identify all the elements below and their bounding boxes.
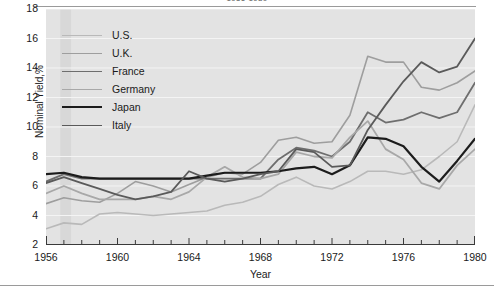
legend-swatch-icon — [62, 89, 102, 90]
x-tick-label: 1968 — [231, 251, 291, 263]
legend-item[interactable]: Germany — [62, 80, 155, 98]
legend-item[interactable]: Japan — [62, 98, 155, 116]
y-tick-label: 6 — [0, 179, 38, 191]
y-tick-label: 10 — [0, 120, 38, 132]
y-tick-label: 8 — [0, 150, 38, 162]
x-tick-label: 1980 — [445, 251, 494, 263]
y-tick-label: 12 — [0, 91, 38, 103]
legend-item[interactable]: Italy — [62, 116, 155, 134]
legend-swatch-icon — [62, 71, 102, 72]
x-tick-label: 1964 — [159, 251, 219, 263]
figure-title: 1956-1980 — [0, 0, 494, 1]
top-divider — [34, 6, 476, 7]
legend-item[interactable]: France — [62, 62, 155, 80]
y-tick-label: 4 — [0, 209, 38, 221]
legend-label: Japan — [112, 101, 141, 113]
x-axis-label: Year — [46, 268, 475, 280]
y-tick-label: 16 — [0, 32, 38, 44]
x-tick-label: 1972 — [302, 251, 362, 263]
legend-label: U.S. — [112, 29, 132, 41]
y-tick-label: 18 — [0, 2, 38, 14]
bottom-divider — [0, 285, 494, 286]
legend-item[interactable]: U.S. — [62, 26, 155, 44]
x-tick-label: 1976 — [374, 251, 434, 263]
legend-swatch-icon — [62, 53, 102, 54]
legend-label: U.K. — [112, 47, 132, 59]
x-tick-label: 1960 — [88, 251, 148, 263]
legend: U.S.U.K.FranceGermanyJapanItaly — [62, 26, 155, 134]
figure-root: 1956-1980 Nominal Yield,% 18161412108642… — [0, 0, 494, 288]
legend-swatch-icon — [62, 35, 102, 36]
x-tick-label: 1956 — [16, 251, 76, 263]
legend-swatch-icon — [62, 106, 102, 108]
y-tick-label: 14 — [0, 61, 38, 73]
legend-label: Germany — [112, 83, 155, 95]
legend-swatch-icon — [62, 125, 102, 126]
legend-label: France — [112, 65, 145, 77]
y-tick-label: 2 — [0, 238, 38, 250]
legend-item[interactable]: U.K. — [62, 44, 155, 62]
legend-label: Italy — [112, 119, 131, 131]
